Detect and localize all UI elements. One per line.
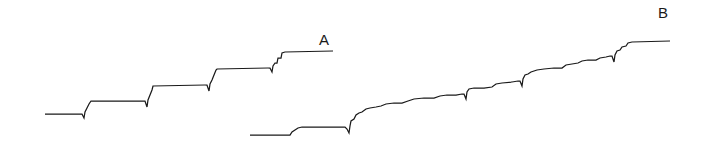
figure-root: A B [0, 0, 711, 158]
figure-background [0, 0, 711, 158]
trace-a-label: A [319, 32, 329, 47]
trace-b-label: B [658, 5, 668, 20]
trace-canvas [0, 0, 711, 158]
